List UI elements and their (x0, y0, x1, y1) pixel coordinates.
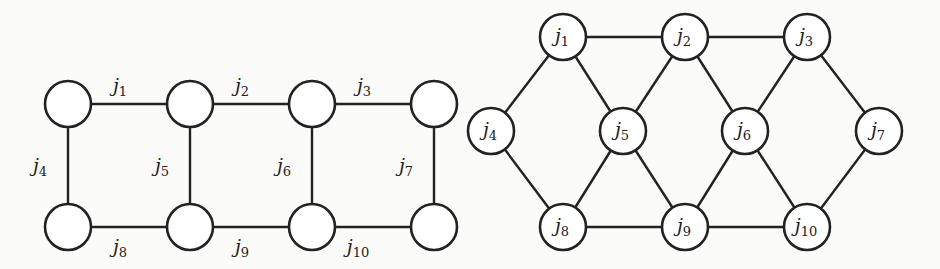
node-j4: j4 (468, 108, 514, 154)
node-circle (45, 81, 91, 127)
edge-label-j5: j5 (151, 154, 169, 179)
node-j1: j1 (540, 14, 586, 60)
edge-label-j1: j1 (109, 74, 127, 99)
node-j10: j10 (784, 204, 830, 250)
edge-label-j2: j2 (231, 74, 249, 99)
left-graph-nodes (45, 81, 457, 250)
node-j2: j2 (662, 14, 708, 60)
node-circle (167, 204, 213, 250)
edge-label-j6: j6 (273, 154, 291, 179)
node-circle (45, 204, 91, 250)
node-circle (167, 81, 213, 127)
node-circle (289, 81, 335, 127)
edge-label-j3: j3 (353, 74, 371, 99)
right-graph-edges (491, 37, 879, 227)
node-circle (411, 204, 457, 250)
node-j8: j8 (540, 204, 586, 250)
edge-label-j4: j4 (29, 154, 47, 179)
node-circle (411, 81, 457, 127)
node-j6: j6 (722, 108, 768, 154)
graph-diagram: j1j2j3j4j5j6j7j8j9j10 j1j2j3j4j5j6j7j8j9… (0, 0, 940, 269)
node-j5: j5 (600, 108, 646, 154)
node-j3: j3 (784, 14, 830, 60)
edge-label-j9: j9 (231, 235, 249, 260)
edge-label-j10: j10 (343, 235, 369, 260)
node-j7: j7 (856, 108, 902, 154)
edge-label-j8: j8 (109, 235, 127, 260)
node-j9: j9 (662, 204, 708, 250)
node-circle (289, 204, 335, 250)
right-graph-nodes: j1j2j3j4j5j6j7j8j9j10 (468, 14, 902, 250)
edge-label-j7: j7 (395, 154, 413, 179)
left-graph-edges (68, 104, 434, 227)
